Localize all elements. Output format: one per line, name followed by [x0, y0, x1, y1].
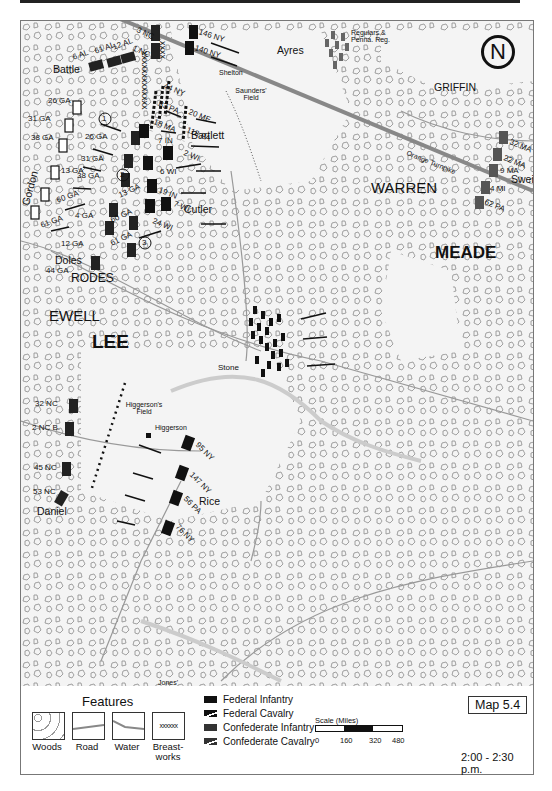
features-title: Features [82, 694, 133, 709]
label-warren: WARREN [371, 179, 437, 196]
marker-3: 3 [142, 238, 146, 247]
legend-water-label: Water [107, 742, 147, 752]
label-ayres: Ayres [277, 44, 304, 56]
legend-confederate-cavalry: Confederate Cavalry [204, 736, 315, 747]
unit-45nc: 45 NC [34, 463, 57, 472]
scale-tick-160: 160 [340, 736, 353, 745]
label-rodes: RODES [71, 271, 114, 285]
confederate-infantry-label: Confederate Infantry [223, 722, 314, 733]
marker-2: 2 [120, 170, 124, 179]
label-higgerson: Higgerson [155, 424, 187, 431]
unit-38ga-inner: 38 GA [77, 171, 100, 180]
water-swatch [112, 712, 145, 740]
unit-53nc: 53 NC [33, 487, 56, 496]
unit-4mi: 4 MI [490, 184, 506, 193]
label-regulars: Regulars & Penna. Reg. [351, 29, 401, 43]
label-battle: Battle [53, 63, 80, 75]
unit-44ga: 44 GA [46, 266, 69, 275]
marker-1: 1 [102, 114, 106, 123]
unit-2ncb: 2 NC B. [32, 423, 60, 432]
unit-6wi: 6 WI [160, 167, 176, 176]
scale-tick-0: 0 [315, 736, 319, 745]
legend-confederate-infantry: Confederate Infantry [204, 722, 314, 733]
label-higgersons-field: Higgerson's Field [119, 401, 169, 415]
unit-26ga: 26 GA [48, 96, 71, 105]
map-legend: Features Woods Road Water xxxxxx Breast-… [20, 686, 534, 775]
unit-4ga: 4 GA [75, 211, 93, 220]
svg-text:xxxxxxxxxxxxx: xxxxxxxxxxxxx [140, 51, 150, 110]
label-griffin: GRIFFIN [434, 81, 476, 93]
federal-cavalry-label: Federal Cavalry [223, 708, 294, 719]
confederate-cavalry-label: Confederate Cavalry [223, 736, 315, 747]
scale-tick-320: 320 [369, 736, 382, 745]
battle-map: xxxxxxxxxxxxx xxxx [20, 20, 534, 688]
legend-woods-label: Woods [27, 742, 67, 752]
label-doles: Doles [55, 254, 82, 266]
map-time: 2:00 - 2:30 p.m. [461, 751, 533, 775]
legend-federal-infantry: Federal Infantry [204, 694, 293, 705]
legend-federal-cavalry: Federal Cavalry [204, 708, 294, 719]
unit-26ga-inner: 26 GA [85, 132, 108, 141]
top-rule [20, 0, 520, 3]
legend-breastworks-label: Breast-works [148, 742, 188, 762]
label-stone: Stone [218, 363, 239, 372]
label-ewell: EWELL [49, 307, 100, 324]
unit-32nc: 32 NC [35, 399, 58, 408]
unit-12ga: 12 GA [61, 239, 84, 248]
scale-bar [315, 725, 403, 732]
north-label: N [490, 39, 506, 64]
label-lee: LEE [92, 331, 129, 353]
label-daniel: Daniel [37, 505, 67, 517]
federal-infantry-label: Federal Infantry [223, 694, 293, 705]
federal-infantry-swatch [204, 696, 217, 703]
terrain-layer: xxxxxxxxxxxxx xxxx [21, 21, 533, 687]
label-shelton: Shelton [219, 69, 243, 76]
scale-title: Scale (Miles) [315, 716, 358, 725]
unit-31ga: 31 GA [28, 114, 51, 123]
map-number: Map 5.4 [468, 696, 527, 714]
confederate-cavalry-swatch [204, 738, 217, 745]
label-saunders-field: Saunders' Field [231, 87, 271, 101]
road-swatch [72, 712, 105, 740]
legend-road-label: Road [67, 742, 107, 752]
federal-cavalry-swatch [204, 710, 217, 717]
unit-9ma: 9 MA [500, 166, 519, 175]
scale-tick-480: 480 [392, 736, 405, 745]
unit-38ga: 38 GA [31, 133, 54, 142]
label-meade: MEADE [435, 243, 496, 263]
unit-31ga-inner: 31 GA [81, 154, 104, 163]
confederate-infantry-swatch [204, 724, 217, 731]
unit-7in: 7 IN [158, 136, 173, 145]
breastworks-swatch: xxxxxx [152, 712, 185, 740]
woods-swatch [32, 712, 65, 740]
label-rice: Rice [199, 495, 220, 507]
north-arrow-icon: N [481, 35, 515, 69]
